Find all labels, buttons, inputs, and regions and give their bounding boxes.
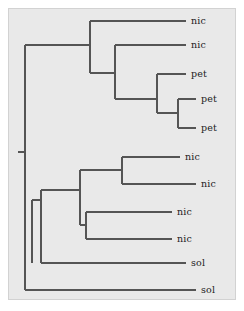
tip-label: nic	[201, 179, 216, 189]
tip-label: nic	[185, 152, 200, 162]
tip-label: pet	[201, 94, 217, 104]
tip-label: nic	[191, 40, 206, 50]
tree-branches	[0, 0, 244, 311]
tip-label: sol	[191, 258, 205, 268]
tip-label: nic	[191, 16, 206, 26]
tip-label: sol	[201, 285, 215, 295]
tip-label: pet	[191, 69, 207, 79]
tip-label: nic	[177, 207, 192, 217]
tip-label: nic	[177, 234, 192, 244]
tree-figure: nicnicpetpetpetnicnicnicnicsolsol	[0, 0, 244, 311]
tip-label: pet	[201, 123, 217, 133]
